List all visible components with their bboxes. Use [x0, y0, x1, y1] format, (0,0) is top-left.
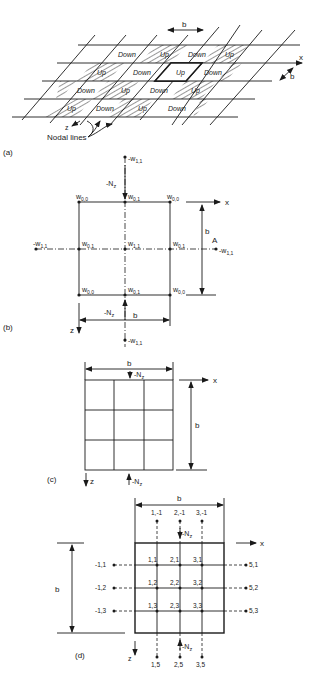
svg-text:-w1,1: -w1,1 [219, 247, 234, 256]
svg-text:-1,2: -1,2 [95, 584, 107, 591]
svg-text:b: b [127, 359, 132, 368]
cell-label: Up [176, 69, 185, 77]
cell-label: Down [204, 69, 222, 76]
svg-text:-Nz: -Nz [182, 530, 192, 539]
dimension-b-label: b [290, 72, 295, 81]
svg-text:2,5: 2,5 [174, 661, 183, 668]
load-bottom-label: -Nz [104, 309, 114, 318]
svg-text:w0,1: w0,1 [127, 193, 140, 202]
svg-text:b: b [195, 421, 200, 430]
svg-text:5,1: 5,1 [249, 561, 258, 568]
panel-c-grid: b -Nz x b z -Nz (c) [47, 359, 217, 487]
z-axis-arrow [72, 121, 80, 126]
cell-label: Up [67, 105, 76, 113]
z-axis-label: z [65, 124, 69, 131]
cell-label: Down [77, 87, 95, 94]
svg-text:3,2: 3,2 [193, 579, 202, 586]
svg-text:w0,0: w0,0 [81, 286, 94, 295]
panel-a-waveform: Down Up Down Up Up Down Up Down Down Up … [3, 20, 303, 157]
svg-text:-1,1: -1,1 [95, 561, 107, 568]
cell-label: Up [160, 51, 169, 59]
svg-text:2,2: 2,2 [170, 579, 179, 586]
svg-text:-1,3: -1,3 [95, 607, 107, 614]
svg-text:x: x [213, 376, 217, 385]
svg-text:-Nz: -Nz [132, 478, 142, 487]
svg-text:2,-1: 2,-1 [174, 509, 186, 516]
cell-label: Down [133, 69, 151, 76]
svg-text:-Nz: -Nz [134, 371, 144, 380]
svg-text:x: x [225, 198, 229, 207]
cell-label: Down [150, 87, 168, 94]
panel-b-finite-difference: -Nz -Nz -w1,1 w0,0 w0,1 w0,0 -w1,1 w0,1 … [3, 155, 234, 347]
cell-label: Up [97, 69, 106, 77]
cell-label: Up [138, 105, 147, 113]
cell-label: Down [118, 51, 136, 58]
svg-text:w1,1: w1,1 [127, 240, 140, 249]
svg-text:3,3: 3,3 [193, 602, 202, 609]
panel-label-b: (b) [3, 323, 13, 332]
svg-text:w0,0: w0,0 [75, 193, 88, 202]
cell-label: Up [191, 87, 200, 95]
cell-label: Down [96, 105, 114, 112]
svg-text:w0,0: w0,0 [172, 286, 185, 295]
svg-text:w0,1: w0,1 [127, 286, 140, 295]
panel-label-a: (a) [3, 148, 13, 157]
cell-label: Up [121, 87, 130, 95]
svg-text:3,1: 3,1 [193, 556, 202, 563]
svg-text:5,2: 5,2 [249, 584, 258, 591]
svg-text:1,5: 1,5 [151, 661, 160, 668]
svg-text:w0,1: w0,1 [172, 240, 185, 249]
svg-text:3,5: 3,5 [196, 661, 205, 668]
svg-text:b: b [205, 227, 210, 236]
svg-text:1,3: 1,3 [148, 602, 157, 609]
svg-text:-w1,1: -w1,1 [128, 155, 143, 164]
svg-text:z: z [90, 477, 94, 486]
svg-text:A: A [212, 236, 218, 245]
svg-text:1,2: 1,2 [148, 579, 157, 586]
cell-label: Down [188, 51, 206, 58]
svg-text:x: x [260, 539, 264, 548]
svg-text:3,-1: 3,-1 [196, 509, 208, 516]
svg-text:1,1: 1,1 [148, 556, 157, 563]
svg-text:-w1,1: -w1,1 [128, 337, 143, 346]
dimension-b-label: b [182, 20, 187, 29]
panel-label-c: (c) [47, 475, 57, 484]
svg-text:b: b [133, 311, 138, 320]
svg-text:2,1: 2,1 [170, 556, 179, 563]
svg-text:2,3: 2,3 [170, 602, 179, 609]
svg-text:b: b [177, 494, 182, 503]
svg-text:-Nz: -Nz [182, 643, 192, 652]
svg-text:z: z [70, 326, 74, 335]
x-axis-label: x [299, 53, 303, 62]
svg-text:b: b [55, 585, 60, 594]
panel-label-d: (d) [75, 651, 85, 660]
svg-text:w0,1: w0,1 [81, 240, 94, 249]
cell-label: Up [225, 51, 234, 59]
svg-text:w0,0: w0,0 [166, 193, 179, 202]
svg-text:1,-1: 1,-1 [151, 509, 163, 516]
panel-d-grid-nodes: 1,-1 2,-1 3,-1 1,5 2,5 3,5 -1,1 -1,2 -1,… [55, 494, 264, 668]
cell-label: Down [168, 105, 186, 112]
svg-text:z: z [128, 655, 132, 662]
nodal-lines-label: Nodal lines [47, 133, 87, 142]
svg-text:5,3: 5,3 [249, 607, 258, 614]
plate-buckling-figure: Down Up Down Up Up Down Up Down Down Up … [0, 0, 321, 689]
load-top-label: -Nz [106, 180, 116, 189]
